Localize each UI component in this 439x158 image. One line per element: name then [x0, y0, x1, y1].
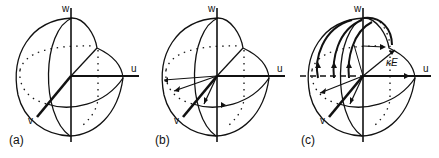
axis-label-u: u [131, 63, 137, 74]
panel-b: w u v (b) [146, 0, 292, 158]
panel-c: w u v κE (c) [292, 0, 438, 158]
axis-label-u: u [423, 63, 429, 74]
panel-a: w u v (a) [0, 0, 146, 158]
panel-label-b: (b) [155, 133, 170, 147]
axis-label-u: u [277, 63, 283, 74]
panel-label-c: (c) [301, 133, 315, 147]
panel-label-a: (a) [9, 133, 24, 147]
annotation-kappa-e: κE [386, 57, 398, 68]
axis-label-v: v [320, 115, 325, 126]
axis-label-v: v [28, 115, 33, 126]
axis-label-w: w [62, 3, 69, 14]
axis-label-v: v [174, 115, 179, 126]
axis-label-w: w [354, 3, 361, 14]
axis-label-w: w [208, 3, 215, 14]
